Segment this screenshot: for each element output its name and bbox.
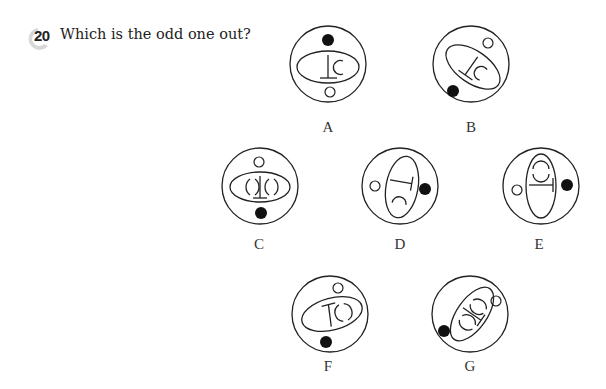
arc-left: [333, 305, 343, 323]
arc: [471, 64, 487, 81]
black-dot: [322, 34, 334, 46]
option-figure-e[interactable]: [499, 144, 583, 228]
figure-f-drawing: [288, 272, 372, 356]
arc: [392, 196, 407, 205]
t-bar: [458, 70, 472, 80]
inner-ellipse: [381, 154, 423, 221]
option-figure-g[interactable]: [428, 272, 512, 356]
white-dot: [512, 185, 522, 195]
outer-circle: [433, 26, 509, 102]
question-number-badge: 20: [24, 26, 50, 52]
option-label-a: A: [313, 119, 343, 136]
white-dot: [370, 181, 380, 191]
figure-g-drawing: [428, 272, 512, 356]
arc-right-outer: [274, 179, 278, 195]
option-figure-c[interactable]: [218, 144, 302, 228]
figure-a-drawing: [286, 22, 370, 106]
white-dot: [254, 157, 264, 167]
option-label-c: C: [244, 236, 274, 253]
arc-right: [344, 302, 354, 320]
figure-b-drawing: [429, 22, 513, 106]
figure-c-drawing: [218, 144, 302, 228]
question-number: 20: [34, 27, 50, 44]
arc: [333, 61, 343, 75]
white-dot: [483, 38, 493, 48]
black-dot: [419, 183, 431, 195]
option-figure-f[interactable]: [288, 272, 372, 356]
arc-left-inner: [255, 179, 259, 195]
white-dot: [491, 296, 501, 306]
t-stem: [390, 180, 412, 184]
question-text: Which is the odd one out?: [60, 26, 251, 42]
arc-upper: [533, 161, 549, 169]
option-label-g: G: [455, 358, 485, 375]
option-label-e: E: [524, 236, 554, 253]
option-figure-d[interactable]: [358, 144, 442, 228]
black-dot: [255, 207, 267, 219]
white-dot: [325, 87, 335, 97]
option-label-d: D: [385, 236, 415, 253]
black-dot: [561, 179, 573, 191]
black-dot: [320, 336, 332, 348]
t-stem: [465, 57, 478, 75]
option-label-f: F: [313, 358, 343, 375]
outer-circle: [432, 276, 508, 352]
figure-e-drawing: [499, 144, 583, 228]
inner-ellipse: [298, 291, 366, 338]
option-label-b: B: [456, 119, 486, 136]
black-dot: [447, 85, 459, 97]
white-dot: [333, 283, 343, 293]
t-stem: [326, 305, 335, 327]
figure-d-drawing: [358, 144, 442, 228]
option-figure-a[interactable]: [286, 22, 370, 106]
arc-right-inner: [265, 179, 269, 195]
option-figure-b[interactable]: [429, 22, 513, 106]
arc-right-outer: [473, 296, 489, 309]
arc-lower: [533, 174, 549, 182]
inner-ellipse: [526, 154, 556, 218]
arc-left-outer: [246, 179, 250, 195]
arc-left-outer: [457, 320, 473, 333]
black-dot: [438, 325, 450, 337]
